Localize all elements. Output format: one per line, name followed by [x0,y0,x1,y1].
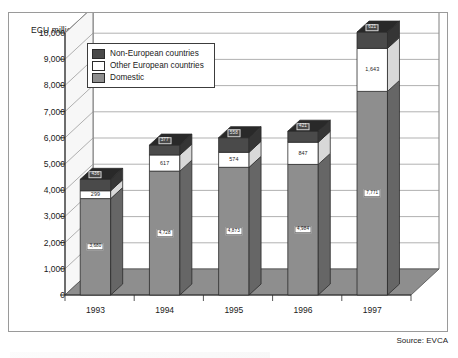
bar-value-label: 617 [158,160,170,166]
legend-swatch-domestic-icon [92,73,105,83]
legend-swatch-other-european-icon [92,61,105,71]
x-axis-tick-label: 1995 [224,305,243,315]
x-axis-tick-label: 1994 [155,305,174,315]
bar-segment [219,156,261,295]
bar-value-label: 299 [89,191,101,197]
bar-value-label: 621 [366,24,379,32]
bar-value-label: 421 [297,123,310,131]
legend-label-other-european: Other European countries [110,61,204,70]
bar-segment [288,153,330,295]
legend-item-other-european: Other European countries [92,60,209,71]
bar-value-label: 558 [227,129,240,137]
bar-value-label: 436 [89,171,102,179]
bar-segment [149,160,191,295]
bar-value-label: 847 [297,150,309,156]
bar-value-label: 4,728 [156,229,173,237]
legend-item-non-european: Non-European countries [92,48,209,59]
screenshot-root: ECU million 10,0009,0008,0007,0006,0005,… [0,0,458,358]
x-axis-tick-label: 1996 [294,305,313,315]
bar-segment [80,188,122,295]
bar-value-label: 1,643 [364,67,381,73]
chart-figure-frame: ECU million 10,0009,0008,0007,0006,0005,… [8,12,448,332]
bar-value-label: 4,873 [225,227,242,235]
chart-canvas [9,13,449,333]
x-axis-tick-label: 1997 [363,305,382,315]
bar-value-label: 3,680 [87,243,104,251]
legend-label-domestic: Domestic [110,73,144,82]
plot-area [9,13,447,331]
legend-swatch-non-european-icon [92,49,105,59]
bar-value-label: 377 [158,137,171,145]
bar-value-label: 574 [228,157,240,163]
legend-item-domestic: Domestic [92,72,209,83]
x-axis-tick-label: 1993 [86,305,105,315]
chart-legend: Non-European countries Other European co… [87,43,215,88]
legend-label-non-european: Non-European countries [110,49,199,58]
bar-value-label: 7,771 [364,189,381,197]
cut-off-caption [10,352,270,358]
bar-segment [357,80,399,295]
bar-value-label: 4,984 [295,226,312,234]
source-note: Source: EVCA [396,336,448,345]
